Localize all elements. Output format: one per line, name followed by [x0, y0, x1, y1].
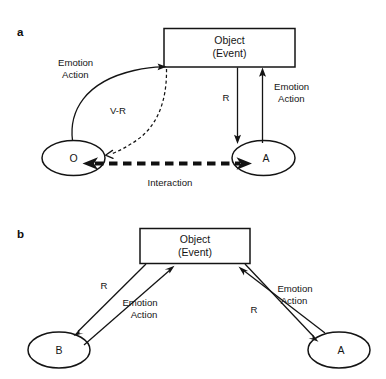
object-box-b-line2: (Event) — [178, 246, 212, 258]
panel-b-letter: b — [17, 228, 24, 240]
edge-b-to-object-label-line2: Action — [131, 309, 158, 320]
edge-b-to-object-label-line1: Emotion — [122, 297, 157, 308]
edge-object-to-o-arrowhead — [106, 150, 114, 158]
edge-a-to-object-b-label-line1: Emotion — [277, 283, 312, 294]
edge-a-to-object-label-line1: Emotion — [274, 81, 309, 92]
edge-a-to-object-label-line2: Action — [278, 93, 305, 104]
edge-o-to-object-label-line2: Action — [62, 69, 89, 80]
edge-o-a-interaction-label: Interaction — [148, 177, 193, 188]
figure-container: a Object (Event) O A Emotion — [0, 0, 386, 379]
node-o-label: O — [69, 152, 77, 164]
edge-object-to-b-arrowhead — [74, 330, 84, 336]
object-box-a: Object (Event) — [164, 29, 295, 68]
object-box-a-line2: (Event) — [213, 47, 247, 59]
edge-object-to-o: V-R — [106, 69, 167, 158]
edge-a-to-object: Emotion Action — [259, 68, 309, 144]
edge-object-to-o-label: V-R — [110, 105, 126, 116]
node-a-b: A — [308, 332, 370, 368]
edge-a-to-object-b: Emotion Action — [239, 267, 326, 334]
object-box-b-line1: Object — [180, 233, 210, 245]
node-a: A — [232, 141, 295, 176]
diagram-svg: a Object (Event) O A Emotion — [0, 0, 386, 379]
edge-a-to-object-b-arrowhead — [239, 267, 249, 276]
panel-a: a Object (Event) O A Emotion — [17, 26, 309, 188]
panel-a-letter: a — [17, 26, 24, 38]
edge-object-to-b-label: R — [101, 280, 108, 291]
object-box-b: Object (Event) — [140, 229, 250, 264]
edge-b-to-object-arrowhead — [165, 266, 175, 274]
edge-o-to-object: Emotion Action — [58, 57, 167, 141]
edge-object-to-a-b-label: R — [251, 304, 258, 315]
edge-object-to-a-label: R — [223, 92, 230, 103]
edge-object-to-a: R — [223, 68, 241, 145]
edge-a-to-object-b-label-line2: Action — [281, 295, 308, 306]
panel-b: b Object (Event) B A R — [17, 228, 370, 368]
edge-o-to-object-label-line1: Emotion — [58, 57, 93, 68]
node-b: B — [28, 332, 90, 368]
object-box-a-line1: Object — [214, 34, 244, 46]
node-a-b-label: A — [337, 344, 344, 356]
node-a-label: A — [262, 152, 269, 164]
edge-b-to-object: Emotion Action — [84, 266, 175, 345]
node-b-label: B — [55, 344, 62, 356]
node-o: O — [42, 141, 105, 176]
edge-o-a-interaction: Interaction — [83, 157, 253, 188]
